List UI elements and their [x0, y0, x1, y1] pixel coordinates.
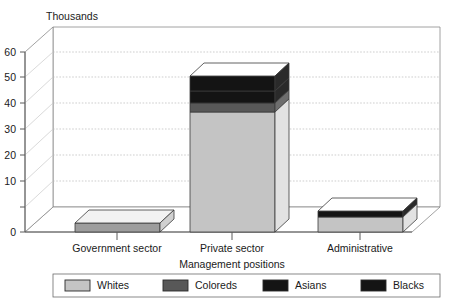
x-axis-title: Management positions: [179, 258, 285, 270]
y-tick-label-0: 0: [10, 226, 16, 238]
bar-top-face: [318, 198, 417, 211]
y-axis-unit-label: Thousands: [46, 10, 98, 22]
stacked-bar-chart-3d: 60 50 40 30 20 10 0 Thousands: [0, 0, 463, 307]
bar-private-sector[interactable]: [190, 63, 289, 232]
legend-label-coloreds: Coloreds: [195, 279, 237, 291]
y-axis-ticks: 60 50 40 30 20 10 0: [4, 46, 25, 238]
y-tick-label-10: 10: [4, 175, 16, 187]
y-tick-label-50: 50: [4, 71, 16, 83]
bar-administrative[interactable]: [318, 198, 417, 232]
x-category-label-government-sector: Government sector: [72, 242, 162, 254]
bar-segment-coloreds: [75, 223, 160, 232]
legend-label-whites: Whites: [97, 279, 129, 291]
y-tick-label-30: 30: [4, 123, 16, 135]
legend-swatch-blacks: [361, 280, 386, 291]
bar-government-sector[interactable]: [75, 210, 174, 232]
y-tick-label-20: 20: [4, 149, 16, 161]
x-axis-ticks: [117, 232, 360, 240]
y-tick-label-40: 40: [4, 97, 16, 109]
chart-container: 60 50 40 30 20 10 0 Thousands: [0, 0, 463, 307]
legend-swatch-asians: [263, 280, 288, 291]
legend-swatch-coloreds: [163, 280, 188, 291]
bar-segment-coloreds: [190, 103, 275, 112]
left-wall: [25, 27, 53, 232]
legend-item-whites[interactable]: Whites: [65, 279, 129, 291]
legend-label-asians: Asians: [295, 279, 327, 291]
legend-label-blacks: Blacks: [393, 279, 424, 291]
legend-item-asians[interactable]: Asians: [263, 279, 327, 291]
x-category-label-private-sector: Private sector: [200, 242, 265, 254]
y-tick-label-60: 60: [4, 46, 16, 58]
bar-right-face-whites: [275, 99, 289, 232]
bar-segment-whites: [190, 112, 275, 232]
x-category-label-administrative: Administrative: [327, 242, 393, 254]
legend-item-blacks[interactable]: Blacks: [361, 279, 424, 291]
legend-swatch-whites: [65, 280, 90, 291]
bar-segment-blacks: [190, 76, 275, 91]
bar-segment-asians: [190, 91, 275, 103]
bar-top-face: [190, 63, 289, 76]
bar-segment-whites: [318, 217, 403, 232]
chart-legend: Whites Coloreds Asians Blacks: [53, 274, 440, 297]
bar-segment-asians: [318, 211, 403, 217]
bar-top-face: [75, 210, 174, 223]
legend-item-coloreds[interactable]: Coloreds: [163, 279, 237, 291]
